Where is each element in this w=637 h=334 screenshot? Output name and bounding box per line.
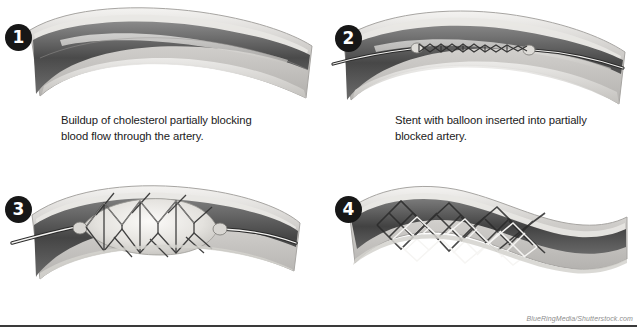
stent-procedure-figure: 1	[0, 0, 637, 334]
bottom-divider-rule	[0, 325, 637, 327]
panel-caption-1: Buildup of cholesterol partially blockin…	[61, 113, 311, 144]
artery-with-collapsed-stent-and-catheter	[319, 0, 637, 120]
artery-with-plaque-narrowing	[0, 0, 318, 120]
step-badge-3: 3	[5, 196, 32, 223]
step-badge-2: 2	[335, 25, 362, 52]
artery-with-expanded-stent-in-place	[319, 167, 637, 287]
panel-caption-2: Stent with balloon inserted into partial…	[395, 113, 637, 144]
step-badge-1: 1	[5, 24, 32, 51]
watermark-credit: BlueRingMedia/Shutterstock.com	[527, 315, 634, 322]
panel-step-2: 2	[319, 0, 637, 167]
step-badge-4: 4	[335, 196, 362, 223]
panel-step-4: 4	[319, 167, 637, 334]
panel-step-3: 3	[0, 167, 318, 334]
artery-with-inflated-balloon-expanding-stent	[0, 167, 318, 287]
panel-step-1: 1	[0, 0, 318, 167]
